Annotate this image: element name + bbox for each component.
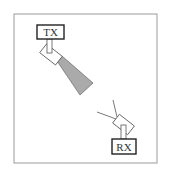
receiver-antenna-line xyxy=(113,100,117,117)
receiver-antenna-line xyxy=(97,112,116,119)
receiver-label: RX xyxy=(116,141,131,153)
transmitter-label: TX xyxy=(43,26,58,38)
transmitter-mount xyxy=(47,39,52,53)
diagram-canvas: TX RX xyxy=(0,0,171,174)
receiver: RX xyxy=(97,100,136,154)
transmitter: TX xyxy=(37,25,93,95)
transmit-beam xyxy=(57,56,93,95)
receiver-mount xyxy=(121,125,126,139)
